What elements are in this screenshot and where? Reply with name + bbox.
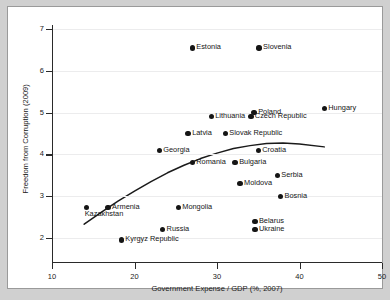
point-label: Croatia xyxy=(262,146,286,153)
y-tick-label: 2 xyxy=(30,234,44,242)
plot-area-card: 234567 1020304050 EstoniaSloveniaHungary… xyxy=(7,6,383,289)
gridline-y xyxy=(53,238,382,239)
x-tick-label: 50 xyxy=(371,273,390,281)
x-tick-mark xyxy=(217,263,218,269)
point-label: Romania xyxy=(196,158,226,165)
point-label: Lithuania xyxy=(215,112,245,119)
gridline-y xyxy=(53,71,382,72)
point-marker xyxy=(190,160,195,165)
y-tick-label: 3 xyxy=(30,192,44,200)
point-marker xyxy=(160,227,165,232)
x-tick-label: 20 xyxy=(124,273,146,281)
point-label: Moldova xyxy=(244,179,272,186)
x-axis-line xyxy=(52,262,382,263)
point-marker xyxy=(252,219,257,224)
point-label: Slovak Republic xyxy=(229,129,282,136)
point-marker xyxy=(278,194,283,199)
point-marker xyxy=(322,106,327,111)
x-tick-mark xyxy=(300,263,301,269)
y-tick-label: 4 xyxy=(30,150,44,158)
point-label: Mongolia xyxy=(182,203,212,210)
y-axis-line xyxy=(52,25,53,263)
point-label: Latvia xyxy=(192,129,212,136)
point-label: Russia xyxy=(167,225,190,232)
point-label: Hungary xyxy=(328,104,356,111)
point-marker xyxy=(190,45,195,50)
point-label: Kyrgyz Republic xyxy=(125,235,178,242)
point-marker xyxy=(275,173,280,178)
y-tick-label: 6 xyxy=(30,67,44,75)
gridline-y xyxy=(53,29,382,30)
point-label: Slovenia xyxy=(263,43,291,50)
point-label: Georgia xyxy=(163,146,189,153)
x-tick-mark xyxy=(52,263,53,269)
gridline-y xyxy=(53,154,382,155)
x-tick-label: 40 xyxy=(289,273,311,281)
point-label: Bulgaria xyxy=(239,158,266,165)
point-marker xyxy=(157,148,162,153)
x-axis-title: Government Expense / GDP (%, 2007) xyxy=(52,285,382,293)
point-marker xyxy=(256,45,261,50)
point-marker xyxy=(185,131,190,136)
point-label: Serbia xyxy=(281,171,302,178)
x-tick-mark xyxy=(135,263,136,269)
point-marker xyxy=(232,160,237,165)
chart-figure: 234567 1020304050 EstoniaSloveniaHungary… xyxy=(0,0,390,300)
x-tick-mark xyxy=(382,263,383,269)
point-marker xyxy=(209,114,214,119)
point-label: Czech Republic xyxy=(255,112,307,119)
x-tick-label: 10 xyxy=(41,273,63,281)
point-marker xyxy=(223,131,228,136)
point-marker xyxy=(248,114,253,119)
point-label: Estonia xyxy=(196,43,221,50)
x-tick-label: 30 xyxy=(206,273,228,281)
point-marker xyxy=(119,237,124,242)
point-label: Kazakhstan xyxy=(85,210,124,217)
point-label: Ukraine xyxy=(259,225,284,232)
y-tick-label: 5 xyxy=(30,109,44,117)
point-marker xyxy=(252,227,257,232)
gridline-y xyxy=(53,196,382,197)
y-tick-label: 7 xyxy=(30,25,44,33)
point-label: Bosnia xyxy=(285,192,308,199)
y-axis-title: Freedom from Corruption (2009) xyxy=(22,49,30,229)
point-marker xyxy=(256,148,261,153)
point-marker xyxy=(237,181,242,186)
point-marker xyxy=(176,205,181,210)
point-label: Belarus xyxy=(259,217,284,224)
